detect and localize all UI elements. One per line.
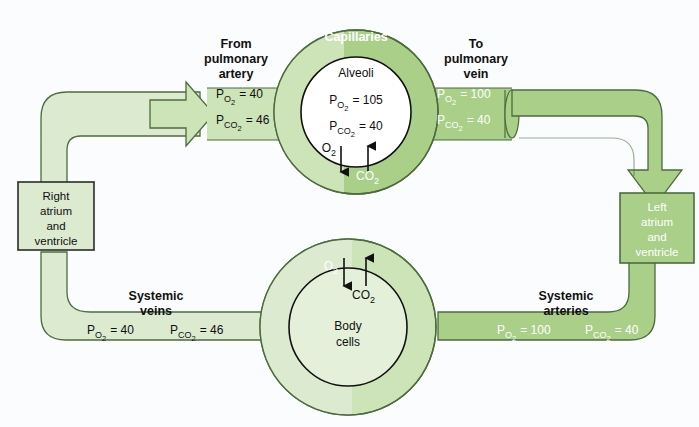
o-subscript: O (337, 100, 344, 110)
p-symbol: P (437, 113, 445, 127)
from-pulmonary-artery-line1: From (220, 37, 251, 51)
two-subscript: 2 (452, 98, 456, 107)
to-pulmonary-vein-line1: To (469, 37, 484, 51)
systemic-artery-po2-value: = 100 (520, 323, 551, 337)
to-pulmonary-vein-line3: vein (463, 67, 488, 81)
from-pulmonary-artery-line3: artery (219, 67, 254, 81)
left-heart-line3: and (647, 231, 666, 243)
alveolar-po2-value: = 105 (352, 93, 383, 107)
right-heart-line1: Right (43, 190, 71, 202)
two-subscript: 2 (238, 124, 242, 133)
co-subscript: CO (445, 120, 459, 130)
systemic-vein-po2-value: = 40 (110, 323, 134, 337)
oxy-po2-value: = 100 (460, 87, 491, 101)
systemic-veins-line1: Systemic (129, 289, 184, 303)
alveolar-pco2-value: = 40 (359, 119, 383, 133)
capillaries-label: Capillaries (324, 30, 387, 44)
two-subscript: 2 (351, 130, 355, 139)
systemic-arteries-line1: Systemic (539, 289, 594, 303)
two-subscript: 2 (459, 124, 463, 133)
alveoli-label: Alveoli (338, 66, 373, 80)
left-heart-line2: atrium (641, 216, 673, 228)
co-subscript: CO (337, 126, 351, 136)
right-heart-line4: ventricle (35, 235, 78, 247)
deoxy-po2-value: = 40 (239, 87, 263, 101)
two-subscript: 2 (231, 98, 235, 107)
right-heart-line3: and (46, 220, 65, 232)
systemic-veins-line2: veins (140, 304, 172, 318)
systemic-artery-pco2-value: = 40 (615, 323, 639, 337)
o-subscript: O (224, 94, 231, 104)
gas-exchange-diagram: From pulmonary artery To pulmonary vein … (0, 0, 699, 427)
systemic-vein-pco2-value: = 46 (200, 323, 224, 337)
oxy-pco2-value: = 40 (467, 113, 491, 127)
right-heart-line2: atrium (40, 205, 72, 217)
p-symbol: P (216, 113, 224, 127)
body-cells-line1: Body (334, 319, 361, 333)
diagram-canvas: From pulmonary artery To pulmonary vein … (0, 0, 699, 427)
p-symbol: P (437, 87, 445, 101)
to-pulmonary-vein-line2: pulmonary (444, 52, 508, 66)
left-heart-line4: ventricle (636, 246, 679, 258)
deoxy-pco2-value: = 46 (246, 113, 270, 127)
p-symbol: P (329, 93, 337, 107)
two-subscript: 2 (344, 104, 348, 113)
left-heart-line1: Left (647, 201, 667, 213)
body-cells-line2: cells (336, 335, 360, 349)
p-symbol: P (216, 87, 224, 101)
from-pulmonary-artery-line2: pulmonary (204, 52, 268, 66)
p-symbol: P (329, 119, 337, 133)
co-subscript: CO (224, 120, 238, 130)
o-subscript: O (445, 94, 452, 104)
systemic-arteries-line2: arteries (543, 304, 588, 318)
